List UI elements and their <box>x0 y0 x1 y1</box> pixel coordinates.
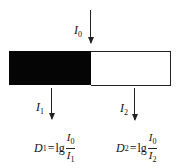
log-function: lg <box>55 141 64 156</box>
subscript: 0 <box>78 30 82 39</box>
incident-intensity-label: I0 <box>74 24 82 41</box>
equals-sign: = <box>48 141 55 156</box>
lhs-subscript: 2 <box>125 144 129 153</box>
transmitted-light-2-arrow-icon <box>134 88 135 120</box>
transmitted-light-1-arrow-icon <box>51 88 52 119</box>
subscript: 0 <box>70 137 74 146</box>
transmitted-intensity-2-label: I2 <box>120 102 128 119</box>
denominator: I2 <box>149 149 157 165</box>
subscript: 1 <box>70 155 74 164</box>
subscript: 0 <box>152 137 156 146</box>
transmitted-intensity-1-label: I1 <box>36 101 44 118</box>
lhs: D <box>116 141 125 156</box>
numerator: I0 <box>148 132 158 149</box>
numerator: I0 <box>66 132 76 149</box>
lhs-subscript: 1 <box>43 144 47 153</box>
log-function: lg <box>137 141 146 156</box>
dark-sample-region <box>9 51 91 85</box>
lhs: D <box>34 141 43 156</box>
fraction: I0 I2 <box>148 132 158 165</box>
incident-light-arrow-icon <box>90 10 91 43</box>
fraction: I0 I1 <box>66 132 76 165</box>
density-formula-1: D1 = lg I0 I1 <box>34 132 75 165</box>
denominator: I1 <box>67 149 75 165</box>
subscript: 2 <box>152 155 156 164</box>
subscript: 1 <box>40 107 44 116</box>
density-formula-2: D2 = lg I0 I2 <box>116 132 157 165</box>
subscript: 2 <box>124 108 128 117</box>
equals-sign: = <box>130 141 137 156</box>
light-sample-region <box>91 51 171 86</box>
